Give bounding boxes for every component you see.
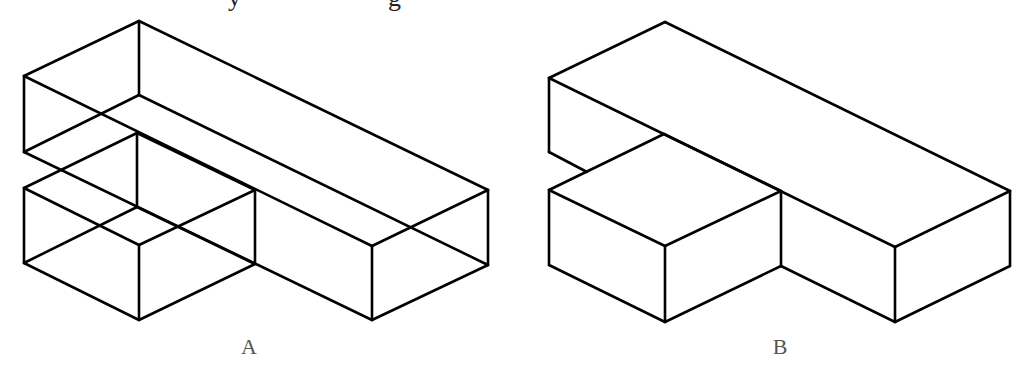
figure-b-solid — [549, 22, 1010, 322]
isometric-figures — [0, 0, 1028, 382]
figure-a-wireframe — [24, 21, 488, 320]
figure-b-label: B — [760, 335, 800, 359]
figure-a-label: A — [229, 335, 269, 359]
